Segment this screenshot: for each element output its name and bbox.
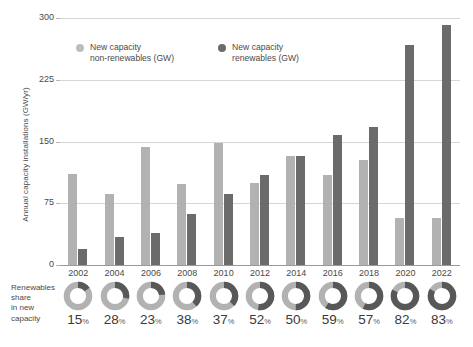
renewables-share-value: 83% xyxy=(420,312,464,329)
bar-non-renewables xyxy=(105,194,114,265)
bar-group xyxy=(322,18,344,265)
donut-chart-icon xyxy=(427,281,457,311)
legend-marker-icon xyxy=(76,44,84,52)
donut-chart-icon xyxy=(245,281,275,311)
donut-chart-icon xyxy=(281,281,311,311)
donut-chart-icon xyxy=(136,281,166,311)
bar-group xyxy=(394,18,416,265)
y-axis-tick-label: 300 xyxy=(14,12,54,22)
bar-renewables xyxy=(333,135,342,265)
donut-chart-icon xyxy=(390,281,420,311)
donut-chart-icon xyxy=(318,281,348,311)
bar-non-renewables xyxy=(432,218,441,265)
x-axis-tick-labels: 2002200420062008201020122014201620182020… xyxy=(60,268,460,282)
bar-renewables xyxy=(405,45,414,265)
bar-renewables xyxy=(78,249,87,265)
y-axis-tick-mark xyxy=(56,18,60,19)
bar-group xyxy=(431,18,453,265)
bar-non-renewables xyxy=(286,156,295,265)
y-axis-tick-mark xyxy=(56,80,60,81)
legend-label: New capacity renewables (GW) xyxy=(232,42,299,64)
donut-chart-icon xyxy=(354,281,384,311)
bar-non-renewables xyxy=(323,175,332,265)
bar-non-renewables xyxy=(359,160,368,265)
renewables-share-donut-row: 15%28%23%38%37%52%50%59%57%82%83% xyxy=(60,281,460,343)
donut-chart-icon xyxy=(63,281,93,311)
renewables-share-donut-cell: 83% xyxy=(420,281,464,329)
donut-chart-icon xyxy=(172,281,202,311)
legend-item-renewables: New capacity renewables (GW) xyxy=(218,42,299,64)
bar-non-renewables xyxy=(177,184,186,266)
y-axis-tick-label: 0 xyxy=(14,259,54,269)
y-axis-tick-label: 150 xyxy=(14,136,54,146)
x-axis-tick-label: 2022 xyxy=(420,268,464,278)
donut-chart-icon xyxy=(209,281,239,311)
bar-renewables xyxy=(442,25,451,265)
bar-non-renewables xyxy=(214,143,223,265)
bar-renewables xyxy=(296,156,305,265)
y-axis-tick-mark xyxy=(56,265,60,266)
bar-renewables xyxy=(224,194,233,265)
bar-renewables xyxy=(260,175,269,265)
bar-renewables xyxy=(151,233,160,265)
y-axis-tick-mark xyxy=(56,142,60,143)
bar-renewables xyxy=(369,127,378,265)
bar-non-renewables xyxy=(395,218,404,265)
bar-renewables xyxy=(187,214,196,265)
legend-marker-icon xyxy=(218,44,226,52)
donut-chart-icon xyxy=(100,281,130,311)
chart-legend: New capacity non-renewables (GW) New cap… xyxy=(76,42,299,64)
bar-group xyxy=(358,18,380,265)
bar-renewables xyxy=(115,237,124,265)
legend-label: New capacity non-renewables (GW) xyxy=(90,42,174,64)
bar-non-renewables xyxy=(250,183,259,265)
x-axis-line xyxy=(60,265,460,266)
legend-item-non-renewables: New capacity non-renewables (GW) xyxy=(76,42,174,64)
chart-figure: Annual capacity installations (GW/yr) 07… xyxy=(0,0,473,347)
y-axis-tick-label: 225 xyxy=(14,74,54,84)
bar-non-renewables xyxy=(141,147,150,265)
bar-non-renewables xyxy=(68,174,77,265)
y-axis-tick-label: 75 xyxy=(14,197,54,207)
renewables-share-label: Renewables share in new capacity xyxy=(11,283,55,324)
y-axis-tick-mark xyxy=(56,203,60,204)
